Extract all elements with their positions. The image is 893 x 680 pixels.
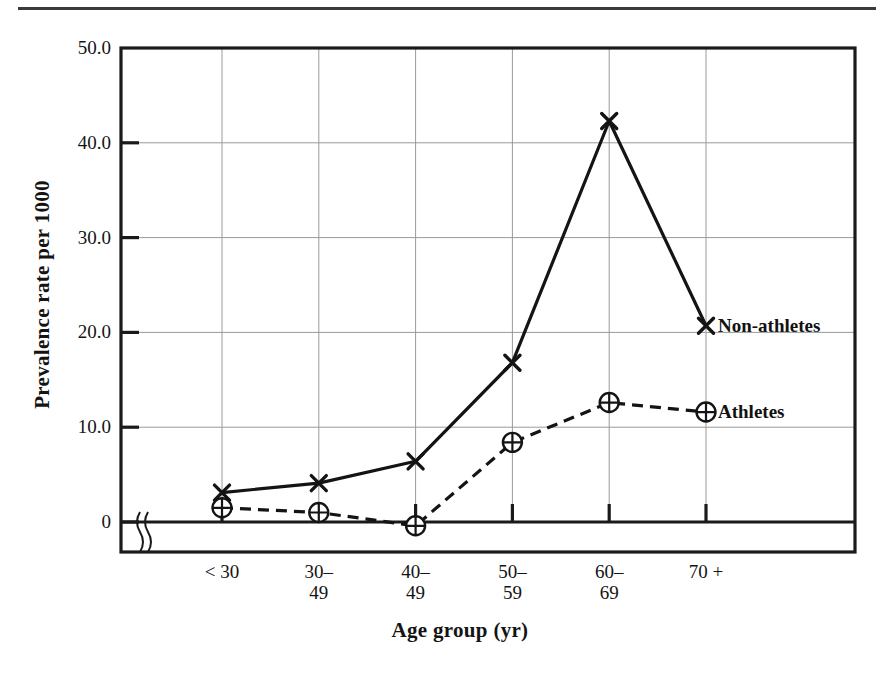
- prevalence-line-chart: Prevalence rate per 1000 Age group (yr) …: [0, 0, 893, 680]
- data-series-layer: [213, 113, 716, 535]
- chart-plot-area: [0, 0, 893, 680]
- figure-page: Prevalence rate per 1000 Age group (yr) …: [0, 0, 893, 680]
- axis-break-icon: [137, 512, 151, 552]
- plot-frame: [121, 48, 855, 552]
- gridlines: [121, 48, 855, 522]
